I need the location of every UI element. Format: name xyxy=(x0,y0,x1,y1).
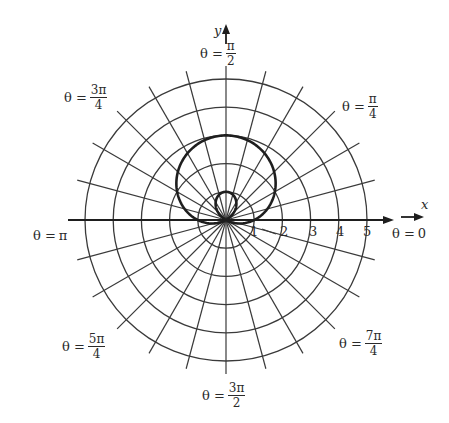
fraction: 3π 2 xyxy=(228,382,246,409)
r-tick-1: 1 xyxy=(250,225,258,238)
y-axis-label: y xyxy=(214,24,221,37)
numerator: 3π xyxy=(90,84,108,98)
theta-lhs: θ = xyxy=(33,229,56,242)
theta-value: 0 xyxy=(418,227,426,240)
fraction: 7π 4 xyxy=(365,330,383,357)
theta-label-7pi-over-4: θ = 7π 4 xyxy=(339,330,382,357)
theta-lhs: θ = xyxy=(202,389,225,402)
grid-spoke xyxy=(149,220,226,353)
tick-dash xyxy=(262,229,276,234)
y-arrowhead-icon xyxy=(222,24,230,34)
grid-spoke xyxy=(226,220,375,260)
denominator: 4 xyxy=(95,98,103,111)
x-axis-label: x xyxy=(421,198,428,211)
numerator: π xyxy=(226,40,236,54)
r-tick-5: 5 xyxy=(363,225,371,238)
grid-spoke xyxy=(226,220,266,369)
grid-spoke xyxy=(226,180,375,220)
theta-lhs: θ = xyxy=(392,227,415,240)
fraction: π 4 xyxy=(368,93,378,120)
numerator: 3π xyxy=(228,382,246,396)
r-tick-2: 2 xyxy=(280,225,288,238)
grid-spoke xyxy=(226,220,303,353)
grid-spoke xyxy=(77,220,226,260)
r-tick-4: 4 xyxy=(336,225,344,238)
grid-spoke xyxy=(93,220,226,297)
theta-value: π xyxy=(59,229,68,242)
theta-lhs: θ = xyxy=(342,100,365,113)
denominator: 2 xyxy=(233,396,241,409)
fraction: 3π 4 xyxy=(90,84,108,111)
denominator: 4 xyxy=(93,347,101,360)
theta-label-3pi-over-2: θ = 3π 2 xyxy=(202,382,245,409)
theta-label-pi-over-4: θ = π 4 xyxy=(342,93,378,120)
theta-lhs: θ = xyxy=(200,47,223,60)
x-arrowhead-icon xyxy=(414,213,424,221)
theta-label-0: θ = 0 xyxy=(392,227,426,240)
denominator: 4 xyxy=(369,107,377,120)
fraction: 5π 4 xyxy=(88,333,106,360)
axes xyxy=(68,24,424,234)
r-tick-3: 3 xyxy=(309,225,317,238)
grid-spoke xyxy=(93,143,226,220)
numerator: 5π xyxy=(88,333,106,347)
theta-label-5pi-over-4: θ = 5π 4 xyxy=(62,333,105,360)
theta-label-3pi-over-4: θ = 3π 4 xyxy=(64,84,107,111)
numerator: π xyxy=(368,93,378,107)
grid-spoke xyxy=(77,180,226,220)
denominator: 2 xyxy=(227,54,235,67)
numerator: 7π xyxy=(365,330,383,344)
grid-spoke xyxy=(226,71,266,220)
fraction: π 2 xyxy=(226,40,236,67)
theta-lhs: θ = xyxy=(64,91,87,104)
theta-label-pi: θ = π xyxy=(33,229,67,242)
polar-axis-arrowhead-icon xyxy=(383,216,394,224)
grid-spoke xyxy=(186,71,226,220)
theta-lhs: θ = xyxy=(62,340,85,353)
denominator: 4 xyxy=(370,344,378,357)
grid-spoke xyxy=(186,220,226,369)
theta-lhs: θ = xyxy=(339,337,362,350)
grid-spoke xyxy=(226,143,359,220)
polar-graph: y x 1 2 3 4 5 θ = π 2 θ = 3π 4 θ = π 4 θ… xyxy=(0,0,449,423)
theta-label-pi-over-2: θ = π 2 xyxy=(200,40,236,67)
